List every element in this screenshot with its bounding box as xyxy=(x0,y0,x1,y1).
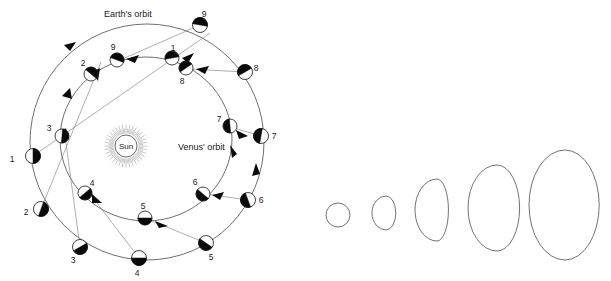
earth-position-label-2: 2 xyxy=(24,207,29,217)
earth-position-marker-6: 6 xyxy=(241,193,264,208)
sun-ray xyxy=(109,141,114,142)
venus-position-label-4: 4 xyxy=(90,178,95,188)
sun-ray xyxy=(121,158,122,163)
telescope-view-crescent-thin xyxy=(529,150,599,260)
earth-position-label-6: 6 xyxy=(259,195,264,205)
telescope-view-gibbous xyxy=(372,196,396,230)
sun-ray xyxy=(112,136,116,139)
venus-position-marker-5: 5 xyxy=(138,201,152,225)
sun-ray xyxy=(138,149,143,150)
phase-lit-limb xyxy=(529,150,565,260)
venus-orbit-label: Venus' orbit xyxy=(178,142,225,152)
telescope-phase-views xyxy=(326,150,599,260)
sight-line-9 xyxy=(120,25,200,60)
venus-position-marker-6: 6 xyxy=(193,177,210,201)
sun-ray xyxy=(116,132,119,136)
planet-disc-dark-side xyxy=(132,258,147,266)
venus-position-label-6: 6 xyxy=(193,177,198,187)
earth-position-marker-2: 2 xyxy=(24,202,49,218)
earth-position-label-1: 1 xyxy=(10,154,15,164)
phase-terminator xyxy=(565,150,599,260)
phase-terminator xyxy=(497,165,520,251)
earth-position-marker-8: 8 xyxy=(237,63,258,80)
earth-position-marker-4: 4 xyxy=(132,251,147,279)
planet-disc-dark-side xyxy=(33,149,41,164)
phase-lit-limb xyxy=(468,165,497,251)
earth-orbit-direction-arrow-2-icon xyxy=(252,163,260,176)
sun-ray xyxy=(129,158,130,163)
sun-ray xyxy=(116,156,119,160)
telescope-view-crescent-wide xyxy=(468,165,520,251)
venus-phases-diagram: Sun 123456789 123456789 Earth's orbit Ve… xyxy=(0,0,611,281)
sun-ray xyxy=(114,155,118,159)
sight-line-5 xyxy=(147,219,206,243)
sun-ray xyxy=(136,153,140,156)
earth-position-marker-7: 7 xyxy=(253,128,276,143)
telescope-view-full-small-disk xyxy=(326,203,350,227)
diagram-canvas: Sun 123456789 123456789 Earth's orbit Ve… xyxy=(0,0,611,281)
venus-position-label-2: 2 xyxy=(81,58,86,68)
earth-position-markers: 123456789 xyxy=(10,9,277,278)
venus-position-marker-1: 1 xyxy=(165,43,179,65)
sun-ray xyxy=(135,155,139,159)
venus-position-marker-8: 8 xyxy=(179,61,193,86)
venus-position-markers: 123456789 xyxy=(47,42,237,225)
planet-disc-dark-side xyxy=(138,218,152,225)
venus-position-marker-7: 7 xyxy=(217,114,237,133)
venus-position-marker-9: 9 xyxy=(110,42,124,67)
sun-label: Sun xyxy=(119,142,133,151)
sight-arrow-4-icon xyxy=(92,194,102,203)
earth-position-label-7: 7 xyxy=(272,131,277,141)
venus-position-marker-3: 3 xyxy=(47,123,69,143)
phase-lit-limb xyxy=(372,196,386,230)
earth-position-label-9: 9 xyxy=(202,9,207,19)
sun-ray xyxy=(136,136,140,139)
earth-position-marker-9: 9 xyxy=(193,9,208,33)
sun-ray xyxy=(112,153,116,156)
sun-ray xyxy=(114,134,118,138)
earth-orbit-label: Earth's orbit xyxy=(104,9,152,19)
sun-ray xyxy=(138,141,143,142)
planet-disc-dark-side xyxy=(223,119,230,133)
venus-orbit-direction-arrow-2-icon xyxy=(230,145,237,158)
sun-ray xyxy=(109,149,114,150)
earth-position-label-5: 5 xyxy=(209,252,214,262)
sun-ray xyxy=(129,129,130,134)
venus-position-label-5: 5 xyxy=(141,201,146,211)
phase-terminator xyxy=(386,196,396,230)
sun-ray xyxy=(133,156,136,160)
venus-position-label-1: 1 xyxy=(171,43,176,53)
venus-orbit-direction-arrow-icon xyxy=(62,88,72,99)
venus-position-label-8: 8 xyxy=(180,76,185,86)
venus-position-label-7: 7 xyxy=(217,114,222,124)
sun-symbol: Sun xyxy=(105,125,148,168)
venus-position-label-9: 9 xyxy=(111,42,116,52)
planet-disc-dark-side xyxy=(61,129,68,143)
sight-line-3 xyxy=(64,128,80,247)
phase-lit-limb xyxy=(415,179,437,241)
phase-outline xyxy=(326,203,350,227)
earth-position-label-3: 3 xyxy=(71,255,76,265)
telescope-view-crescent-thick xyxy=(415,179,448,241)
phase-terminator xyxy=(437,179,448,241)
sun-ray xyxy=(135,134,139,138)
earth-position-marker-3: 3 xyxy=(71,240,88,266)
sun-ray xyxy=(121,129,122,134)
earth-position-label-4: 4 xyxy=(135,268,140,278)
venus-position-marker-2: 2 xyxy=(81,58,98,81)
earth-position-label-8: 8 xyxy=(254,63,259,73)
sun-ray xyxy=(133,132,136,136)
earth-position-marker-5: 5 xyxy=(199,236,214,263)
venus-position-label-3: 3 xyxy=(47,123,52,133)
earth-position-marker-1: 1 xyxy=(10,149,41,165)
